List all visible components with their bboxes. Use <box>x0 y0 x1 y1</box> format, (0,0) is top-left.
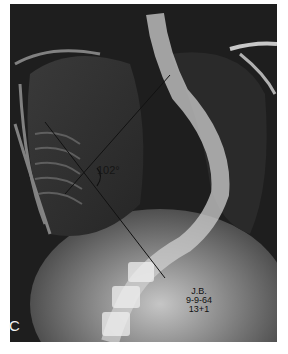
patient-age: 13+1 <box>176 305 222 314</box>
cobb-angle-label: 102° <box>97 166 120 175</box>
patient-annotation: J.B. 9-9-64 13+1 <box>176 287 222 314</box>
xray-image <box>10 4 277 342</box>
panel-letter: C <box>9 321 20 330</box>
xray-illustration <box>10 4 277 342</box>
